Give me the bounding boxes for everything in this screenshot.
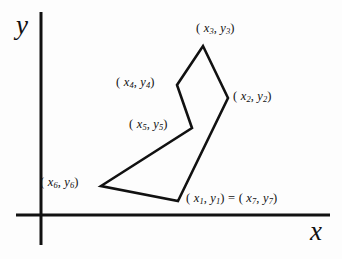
vertex-label-p6: ( x6, y6) <box>40 176 79 189</box>
var-y: y6 <box>64 175 74 189</box>
var-x: x1 <box>194 191 204 205</box>
var-x: x5 <box>137 117 147 131</box>
comma: , <box>134 75 137 89</box>
open-paren: ( <box>233 89 237 103</box>
var-x: x4 <box>124 75 134 89</box>
vertex-label-p2: ( x2, y2) <box>233 90 272 103</box>
open-paren: ( <box>196 21 200 35</box>
var-x: x3 <box>204 21 214 35</box>
y-axis-label: y <box>16 12 28 39</box>
close-paren: ) <box>74 175 78 189</box>
diagram-svg <box>0 0 342 259</box>
open-paren: ( <box>186 191 190 205</box>
close-paren: ) <box>163 117 167 131</box>
comma: , <box>147 117 150 131</box>
close-paren: ) <box>220 191 224 205</box>
var-y: y7 <box>263 191 273 205</box>
vertex-label-p1-equals-p7: ( x1, y1) = ( x7, y7) <box>186 192 277 205</box>
vertex-label-p5: ( x5, y5) <box>129 118 168 131</box>
close-paren: ) <box>273 191 277 205</box>
open-paren: ( <box>239 191 243 205</box>
var-y: y5 <box>153 117 163 131</box>
comma: , <box>204 191 207 205</box>
close-paren: ) <box>267 89 271 103</box>
comma: , <box>256 191 259 205</box>
var-y: y2 <box>257 89 267 103</box>
close-paren: ) <box>150 75 154 89</box>
var-x: x6 <box>48 175 58 189</box>
var-x: x2 <box>241 89 251 103</box>
comma: , <box>251 89 254 103</box>
open-paren: ( <box>129 117 133 131</box>
var-y: y4 <box>140 75 150 89</box>
close-paren: ) <box>230 21 234 35</box>
comma: , <box>214 21 217 35</box>
x-axis-label: x <box>310 218 322 245</box>
open-paren: ( <box>116 75 120 89</box>
vertex-label-p4: ( x4, y4) <box>116 76 155 89</box>
vertex-label-p3: ( x3, y3) <box>196 22 235 35</box>
equals-sign: = <box>228 191 235 205</box>
var-x: x7 <box>246 191 256 205</box>
var-y: y3 <box>220 21 230 35</box>
figure-canvas: y x ( x3, y3) ( x4, y4) ( x2, y2) ( x5, … <box>0 0 342 259</box>
var-y: y1 <box>210 191 220 205</box>
open-paren: ( <box>40 175 44 189</box>
comma: , <box>58 175 61 189</box>
